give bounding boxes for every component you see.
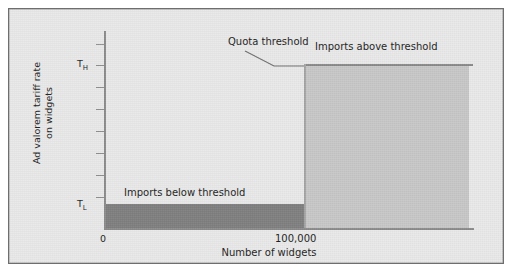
x-axis-label-origin: 0 bbox=[100, 233, 106, 244]
x-axis-label-quota-threshold: 100,000 bbox=[275, 233, 316, 244]
y-axis-title-line-2: on widgets bbox=[43, 43, 55, 183]
annotation-imports-below-threshold: Imports below threshold bbox=[124, 187, 245, 198]
y-axis-title-line-1: Ad valorem tariff rate bbox=[31, 43, 43, 183]
y-axis-line bbox=[104, 31, 106, 230]
region-above-top-edge bbox=[304, 64, 473, 66]
x-axis-title: Number of widgets bbox=[169, 247, 369, 258]
y-axis-tick bbox=[96, 87, 104, 88]
t-high-subscript: H bbox=[83, 64, 88, 72]
region-above-left-edge bbox=[304, 64, 306, 228]
region-imports-above-threshold bbox=[304, 64, 469, 228]
y-axis-tick bbox=[96, 197, 104, 198]
y-axis-tick bbox=[96, 153, 104, 154]
t-low-subscript: L bbox=[83, 204, 87, 212]
chart-plot-area: TH TL 0 100,000 Ad valorem tariff rate o… bbox=[9, 9, 503, 263]
y-axis-label-t-high: TH bbox=[77, 58, 88, 72]
y-axis-tick bbox=[96, 109, 104, 110]
x-axis-line bbox=[104, 228, 474, 230]
y-axis-tick bbox=[96, 131, 104, 132]
y-axis-tick bbox=[96, 65, 104, 66]
y-axis-tick bbox=[96, 175, 104, 176]
y-axis-title: Ad valorem tariff rate on widgets bbox=[31, 43, 55, 183]
figure-panel: TH TL 0 100,000 Ad valorem tariff rate o… bbox=[8, 8, 504, 264]
annotation-imports-above-threshold: Imports above threshold bbox=[315, 41, 438, 52]
y-axis-tick bbox=[96, 44, 104, 45]
region-imports-below-threshold bbox=[105, 204, 304, 228]
y-axis-label-t-low: TL bbox=[77, 198, 87, 212]
annotation-quota-threshold: Quota threshold bbox=[228, 36, 309, 47]
